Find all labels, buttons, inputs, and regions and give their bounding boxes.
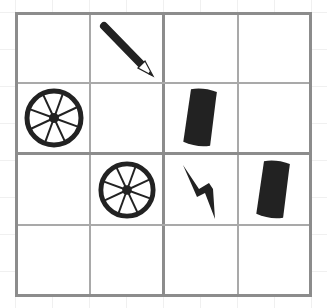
sudoku-board bbox=[15, 12, 312, 297]
cell-r2-c0[interactable] bbox=[18, 155, 90, 224]
cell-r2-c3[interactable] bbox=[239, 155, 309, 224]
cell-r0-c1[interactable] bbox=[91, 15, 162, 83]
wheel-icon bbox=[97, 160, 157, 220]
cell-r0-c0[interactable] bbox=[18, 15, 90, 83]
lightning-icon bbox=[179, 159, 223, 221]
cell-r3-c0[interactable] bbox=[18, 226, 90, 294]
cell-r2-c2[interactable] bbox=[165, 155, 237, 224]
cell-r0-c2[interactable] bbox=[165, 15, 237, 83]
wheel-icon bbox=[23, 87, 85, 149]
cell-r3-c1[interactable] bbox=[91, 226, 162, 294]
cell-r0-c3[interactable] bbox=[239, 15, 309, 83]
cell-r2-c1[interactable] bbox=[91, 155, 162, 224]
cell-r1-c0[interactable] bbox=[18, 84, 90, 152]
cell-r3-c2[interactable] bbox=[165, 226, 237, 294]
pencil-icon bbox=[97, 19, 157, 79]
cylinder-icon bbox=[179, 87, 223, 149]
cell-r1-c2[interactable] bbox=[165, 84, 237, 152]
cell-r1-c3[interactable] bbox=[239, 84, 309, 152]
cell-r1-c1[interactable] bbox=[91, 84, 162, 152]
cell-r3-c3[interactable] bbox=[239, 226, 309, 294]
cylinder-icon bbox=[252, 159, 296, 221]
